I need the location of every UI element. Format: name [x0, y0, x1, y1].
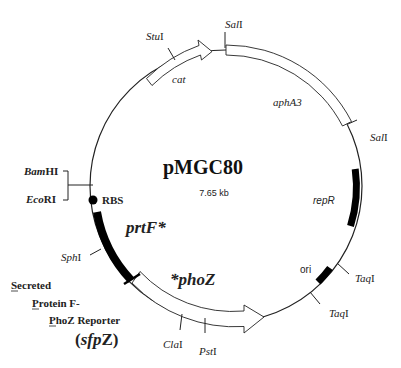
aphA3-gene-block: [226, 45, 352, 126]
phoZ-label: *phoZ: [170, 270, 215, 289]
plasmid-name: pMGC80: [163, 156, 243, 179]
cat-label: cat: [172, 73, 186, 85]
plasmid-size: 7.65 kb: [199, 188, 229, 198]
repR-gene-block: [351, 169, 357, 226]
rbs-label: RBS: [102, 194, 123, 206]
reporter-line-1: Secreted: [11, 279, 51, 291]
plasmid-map: StuI SalI SalI cat aphA3 repR ori TaqI T…: [0, 0, 401, 368]
reporter-line-2: Protein F-: [32, 297, 80, 309]
reporter-abbrev: (sfpZ): [75, 330, 118, 349]
reporter-line-3: PhoZ Reporter: [49, 314, 120, 326]
taqI-upper-tick: [337, 263, 349, 274]
salI-right-label: SalI: [370, 131, 388, 143]
ori-element: [318, 268, 330, 282]
taqI-lower-tick: [310, 292, 320, 304]
ori-label: ori: [300, 264, 311, 275]
prtF-label: prtF*: [124, 218, 166, 237]
repR-label: repR: [313, 195, 335, 206]
aphA3-label: aphA3: [273, 96, 302, 108]
ecoRI-label: EcoRI: [25, 193, 56, 205]
claI-label: ClaI: [163, 338, 183, 350]
bamHI-label: BamHI: [23, 165, 58, 177]
sphI-label: SphI: [61, 251, 82, 263]
taqI-upper-label: TaqI: [355, 272, 375, 284]
rbs-marker: [89, 196, 98, 205]
sphI-tick: [90, 249, 101, 255]
bamhi-ecori-bracket: [63, 171, 93, 200]
stuI-label: StuI: [146, 30, 164, 42]
taqI-lower-label: TaqI: [329, 307, 349, 319]
pstI-label: PstI: [198, 345, 217, 357]
salI-top-label: SalI: [225, 18, 243, 30]
